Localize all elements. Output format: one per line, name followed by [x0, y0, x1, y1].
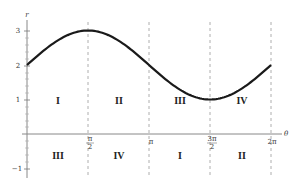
svg-text:3π: 3π: [207, 135, 216, 143]
quadrant-label-upper-4: IV: [236, 95, 248, 106]
y-tick-label-2: 2: [16, 62, 20, 70]
y-tick-label-3: 3: [16, 27, 20, 35]
quadrant-label-lower-1: III: [52, 150, 64, 161]
polar-function-chart: 3 2 1 −1 r θ π 2 π 3π 2 2π I II III IV I…: [0, 0, 301, 186]
x-tick-labels: π 2 π 3π 2 2π: [86, 135, 277, 151]
quadrant-label-upper-3: III: [174, 95, 186, 106]
y-tick-label-1: 1: [16, 96, 20, 104]
quadrant-label-lower-4: II: [238, 150, 246, 161]
quadrant-label-lower-2: IV: [113, 150, 125, 161]
x-tick-label-pi-over-2: π 2: [86, 135, 94, 151]
x-tick-label-2pi: 2π: [267, 138, 276, 146]
quadrant-label-upper-2: II: [115, 95, 123, 106]
x-tick-label-pi: π: [149, 138, 154, 146]
svg-text:2: 2: [88, 143, 92, 151]
quadrant-label-upper-1: I: [56, 95, 60, 106]
y-axis-label: r: [25, 11, 29, 19]
x-axis-label: θ: [284, 130, 289, 138]
x-tick-label-3pi-over-2: 3π 2: [207, 135, 217, 151]
quadrant-label-lower-3: I: [178, 150, 182, 161]
svg-text:π: π: [88, 135, 93, 143]
svg-text:2: 2: [210, 143, 214, 151]
y-tick-label-neg1: −1: [12, 165, 22, 173]
quadrant-labels-upper: I II III IV: [56, 95, 248, 106]
